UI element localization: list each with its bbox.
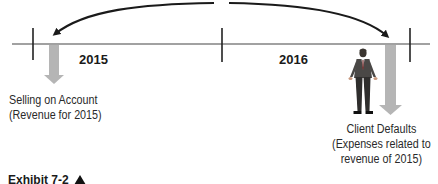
down-arrow-left xyxy=(44,45,64,84)
period-label-2016: 2016 xyxy=(279,52,308,67)
event-subtitle-left: (Revenue for 2015) xyxy=(9,108,102,123)
exhibit-caption-text: Exhibit 7-2 xyxy=(8,173,69,184)
event-subtitle-right-1: (Expenses related to xyxy=(332,137,431,152)
businessman-icon xyxy=(349,49,378,115)
event-label-left: Selling on Account (Revenue for 2015) xyxy=(9,93,102,123)
arc-arrow-left xyxy=(55,3,214,34)
event-title-left: Selling on Account xyxy=(9,93,102,108)
triangle-up-icon xyxy=(74,175,86,184)
timeline-diagram: 2015 2016 Selling on Account (Revenue fo… xyxy=(0,0,438,184)
down-arrow-right xyxy=(379,45,402,115)
exhibit-caption: Exhibit 7-2 xyxy=(8,173,86,184)
period-label-2015: 2015 xyxy=(79,52,108,67)
event-title-right: Client Defaults xyxy=(332,122,431,137)
event-label-right: Client Defaults (Expenses related to rev… xyxy=(332,122,431,167)
arc-arrow-right xyxy=(229,3,387,36)
event-subtitle-right-2: revenue of 2015) xyxy=(332,152,431,167)
